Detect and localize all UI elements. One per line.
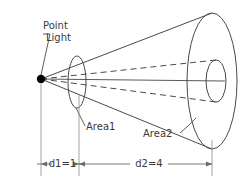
point-light-source-dot bbox=[37, 75, 45, 83]
cone-lower-edge bbox=[41, 79, 212, 149]
d1-dimension-bar: d1=1 bbox=[37, 158, 83, 169]
d2-dimension-bar: d2=4 bbox=[79, 158, 212, 169]
inner-cone-lower-dashed bbox=[41, 79, 216, 102]
d2-arrow-left bbox=[79, 162, 85, 167]
point-light-diagram: d1=1 d2=4 Point Light Area1 Area2 bbox=[0, 0, 241, 181]
area1-label: Area1 bbox=[86, 121, 115, 132]
area1-leader-line bbox=[76, 108, 85, 126]
d1-label: d1=1 bbox=[49, 158, 76, 169]
d2-arrow-right bbox=[206, 162, 212, 167]
inner-cone-upper-dashed bbox=[41, 60, 216, 79]
optical-axis-line bbox=[41, 79, 225, 81]
d1-arrow-left bbox=[41, 162, 47, 167]
area1-ellipse bbox=[68, 56, 86, 108]
d2-label: d2=4 bbox=[135, 158, 162, 169]
point-light-label-line1: Point bbox=[43, 20, 68, 31]
point-light-label-line2: Light bbox=[46, 32, 71, 43]
diagram-canvas: d1=1 d2=4 Point Light Area1 Area2 bbox=[0, 0, 241, 181]
area2-label: Area2 bbox=[143, 128, 172, 139]
